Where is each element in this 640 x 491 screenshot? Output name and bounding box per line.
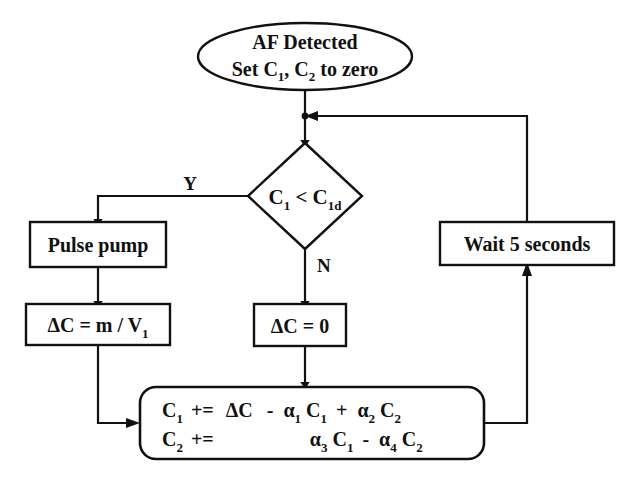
node-delta-c-pump: ΔC = m / V1 xyxy=(26,304,170,345)
update-row1-term2-var: C xyxy=(306,399,320,421)
update-row2-term2-var-sub: 2 xyxy=(416,440,423,455)
update-row1-op: += xyxy=(191,399,214,421)
update-row2-term2-var: C xyxy=(402,428,416,450)
branch-label-no: N xyxy=(317,255,331,276)
update-row2-term2-coef: α xyxy=(379,428,390,450)
update-row1-term3-sign: + xyxy=(336,399,347,421)
connector-delta-c-to-update xyxy=(98,345,128,423)
update-row2-term2-sign: - xyxy=(362,428,369,450)
branch-label-yes: Y xyxy=(183,173,197,194)
update-row1-term3-coef: α xyxy=(357,399,368,421)
pulse-pump-label: Pulse pump xyxy=(48,234,149,257)
update-row1-lhs: C xyxy=(162,399,176,421)
node-delta-c-zero: ΔC = 0 xyxy=(254,304,346,346)
update-row2-lhs-sub: 2 xyxy=(176,440,183,455)
update-row2-term1-var-sub: 1 xyxy=(347,440,354,455)
node-wait: Wait 5 seconds xyxy=(440,222,614,265)
update-row1-term2-var-sub: 1 xyxy=(321,411,328,426)
update-row1-term2-coef: α xyxy=(283,399,294,421)
start-comma-text: , C xyxy=(284,58,308,80)
delta-c-pump-sub: 1 xyxy=(142,326,149,341)
decision-left-var: C xyxy=(268,185,283,209)
node-decision: C1 < C1d xyxy=(248,143,362,249)
update-row1-term2-coef-sub: 1 xyxy=(295,411,302,426)
connector-yes-to-pulse-pump xyxy=(98,196,248,222)
delta-c-pump-prefix: ΔC = m / V xyxy=(47,314,142,336)
update-row1-term1-text: ΔC xyxy=(226,399,253,421)
node-update: C1+=ΔC-α1C1+α2C2 C2+=α3C1-α4C2 xyxy=(140,387,484,459)
node-start: AF Detected Set C1, C2 to zero xyxy=(198,23,412,90)
flowchart-svg: AF Detected Set C1, C2 to zero C1 < C1d … xyxy=(0,0,640,491)
update-row1-term2-sign: - xyxy=(267,399,274,421)
connector-update-to-wait xyxy=(484,274,527,423)
update-row1-term3-coef-sub: 2 xyxy=(369,411,376,426)
update-row1-term3-var-sub: 2 xyxy=(395,411,402,426)
node-pulse-pump: Pulse pump xyxy=(30,222,166,267)
update-row2-term1-var: C xyxy=(332,428,346,450)
update-row1-term3-var: C xyxy=(380,399,394,421)
update-row2-op: += xyxy=(191,428,214,450)
start-set-text: Set C xyxy=(232,58,278,80)
arrowhead-loopback-left xyxy=(305,111,318,121)
decision-operator: < xyxy=(290,185,312,209)
update-row2-term1-coef: α xyxy=(310,428,321,450)
update-row2-term1-coef-sub: 3 xyxy=(321,440,328,455)
decision-right-sub: 1d xyxy=(328,198,343,213)
update-row2-term2-coef-sub: 4 xyxy=(390,440,397,455)
delta-c-zero-label: ΔC = 0 xyxy=(271,315,329,337)
wait-label: Wait 5 seconds xyxy=(464,233,591,255)
start-tail-text: to zero xyxy=(315,58,378,80)
update-row2-lhs: C xyxy=(162,428,176,450)
start-line-1: AF Detected xyxy=(252,31,357,53)
arrowhead-into-update-left xyxy=(126,418,140,428)
flowchart-canvas: AF Detected Set C1, C2 to zero C1 < C1d … xyxy=(0,0,640,491)
decision-right-var: C xyxy=(313,185,328,209)
update-row1-lhs-sub: 1 xyxy=(176,411,183,426)
